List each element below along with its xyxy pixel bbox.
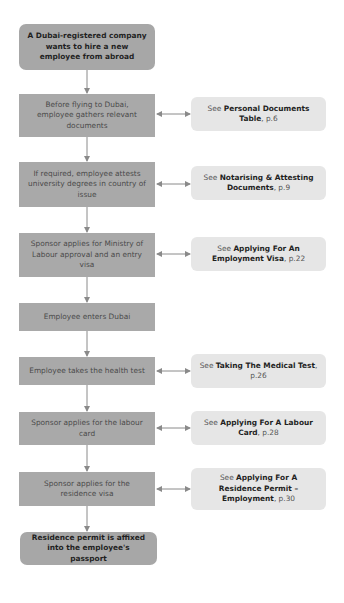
- reference-prefix: See: [217, 244, 233, 253]
- reference-prefix: See: [204, 418, 220, 427]
- reference-labour-card: See Applying For A Labour Card, p.28: [191, 411, 326, 445]
- reference-page: , p.6: [261, 114, 277, 123]
- reference-page: , p.9: [274, 183, 290, 192]
- reference-notarising-attesting: See Notarising & Attesting Documents, p.…: [191, 166, 326, 200]
- reference-text: See Applying For An Employment Visa, p.2…: [199, 244, 318, 265]
- step-health-test: Employee takes the health test: [19, 357, 155, 385]
- step-ministry-approval: Sponsor applies for Ministry of Labour a…: [19, 233, 155, 277]
- reference-employment-visa: See Applying For An Employment Visa, p.2…: [191, 237, 326, 271]
- reference-prefix: See: [208, 104, 224, 113]
- step-text: Employee enters Dubai: [44, 312, 131, 322]
- step-text: Sponsor applies for Ministry of Labour a…: [27, 239, 147, 270]
- reference-title: Notarising & Attesting Documents: [220, 173, 314, 192]
- reference-page: , p.22: [284, 254, 305, 263]
- reference-medical-test: See Taking The Medical Test, p.26: [191, 354, 326, 388]
- step-text: Sponsor applies for the residence visa: [27, 479, 147, 500]
- reference-text: See Taking The Medical Test, p.26: [199, 361, 318, 382]
- start-node: A Dubai-registered company wants to hire…: [19, 24, 155, 70]
- reference-text: See Personal Documents Table, p.6: [199, 104, 318, 125]
- reference-personal-documents: See Personal Documents Table, p.6: [191, 97, 326, 131]
- step-text: Before flying to Dubai, employee gathers…: [27, 100, 147, 131]
- start-node-text: A Dubai-registered company wants to hire…: [27, 31, 147, 62]
- step-enters-dubai: Employee enters Dubai: [19, 303, 155, 331]
- reference-text: See Notarising & Attesting Documents, p.…: [199, 173, 318, 194]
- flowchart: A Dubai-registered company wants to hire…: [0, 0, 344, 603]
- connectors: [0, 0, 344, 603]
- step-gather-documents: Before flying to Dubai, employee gathers…: [19, 94, 155, 137]
- step-text: Employee takes the health test: [29, 366, 145, 376]
- step-labour-card: Sponsor applies for the labour card: [19, 412, 155, 445]
- step-text: If required, employee attests university…: [27, 169, 147, 200]
- end-node: Residence permit is affixed into the emp…: [20, 532, 157, 565]
- reference-prefix: See: [220, 473, 236, 482]
- step-attest-degrees: If required, employee attests university…: [19, 162, 155, 207]
- reference-title: Taking The Medical Test: [216, 361, 315, 370]
- step-text: Sponsor applies for the labour card: [27, 418, 147, 439]
- end-node-text: Residence permit is affixed into the emp…: [28, 533, 149, 564]
- step-residence-visa: Sponsor applies for the residence visa: [19, 472, 155, 506]
- reference-text: See Applying For A Residence Permit – Em…: [199, 473, 318, 504]
- reference-prefix: See: [200, 361, 216, 370]
- reference-prefix: See: [204, 173, 220, 182]
- reference-page: , p.30: [274, 494, 295, 503]
- reference-page: , p.28: [258, 428, 279, 437]
- reference-residence-permit: See Applying For A Residence Permit – Em…: [191, 468, 326, 510]
- reference-text: See Applying For A Labour Card, p.28: [199, 418, 318, 439]
